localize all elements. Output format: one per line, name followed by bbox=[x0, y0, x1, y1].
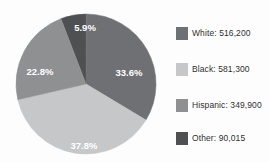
legend-item-black[interactable]: Black: 581,300 bbox=[176, 62, 250, 76]
legend-swatch-icon-black bbox=[176, 63, 188, 76]
legend-swatch-icon-hispanic bbox=[176, 99, 188, 112]
pie-slice-label-white: 33.6% bbox=[116, 67, 143, 78]
legend-item-white[interactable]: White: 516,200 bbox=[176, 26, 251, 40]
pie-chart-plot-area: 5.9%33.6%37.8%22.8% bbox=[8, 6, 168, 162]
legend-label-other: Other: 90,015 bbox=[192, 133, 245, 143]
pie-slice-group bbox=[16, 14, 156, 154]
pie-chart-svg: 5.9%33.6%37.8%22.8% bbox=[8, 6, 168, 162]
legend-label-hispanic: Hispanic: 349,900 bbox=[192, 100, 262, 110]
legend-item-hispanic[interactable]: Hispanic: 349,900 bbox=[176, 98, 262, 112]
legend-swatch-icon-other bbox=[176, 132, 188, 145]
pie-chart-figure: 5.9%33.6%37.8%22.8% White: 516,200Black:… bbox=[0, 0, 269, 162]
chart-legend: White: 516,200Black: 581,300Hispanic: 34… bbox=[176, 26, 268, 146]
legend-swatch-icon-white bbox=[176, 27, 188, 40]
pie-slice-label-hispanic: 22.8% bbox=[27, 66, 54, 77]
legend-label-black: Black: 581,300 bbox=[192, 64, 250, 74]
pie-slice-label-other: 5.9% bbox=[74, 22, 96, 33]
legend-item-other[interactable]: Other: 90,015 bbox=[176, 131, 245, 145]
pie-slice-label-black: 37.8% bbox=[71, 140, 98, 151]
legend-label-white: White: 516,200 bbox=[192, 28, 251, 38]
